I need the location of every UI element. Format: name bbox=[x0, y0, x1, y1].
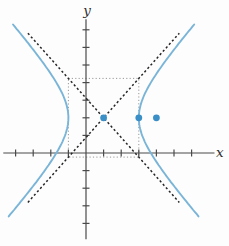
hyperbola-plot: x y bbox=[0, 0, 229, 246]
hyperbola-branch-right bbox=[139, 25, 199, 217]
point-focus bbox=[153, 114, 160, 121]
point-center bbox=[100, 114, 107, 121]
plotted-points bbox=[100, 114, 160, 121]
hyperbola-branch-left bbox=[9, 25, 69, 217]
x-axis-label: x bbox=[216, 144, 224, 160]
point-vertex bbox=[135, 114, 142, 121]
y-axis-label: y bbox=[82, 2, 91, 18]
graph-figure: x y bbox=[0, 0, 229, 246]
